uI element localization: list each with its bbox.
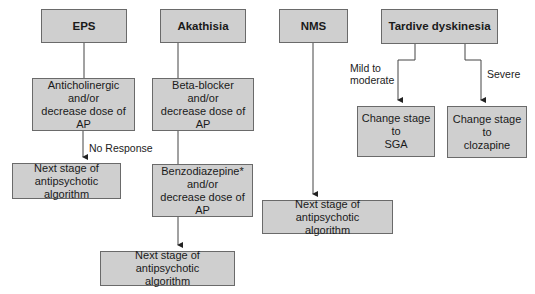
- change-to-sga-box: Change stage to SGA: [357, 106, 435, 157]
- akathisia-next-stage-box: Next stage of antipsychotic algorithm: [100, 251, 235, 286]
- tardive-dyskinesia-box: Tardive dyskinesia: [381, 9, 498, 44]
- severe-label: Severe: [487, 68, 520, 80]
- eps-treatment-box: Anticholinergic and/or decrease dose of …: [32, 78, 135, 131]
- eps-next-stage-box: Next stage of antipsychotic algorithm: [12, 163, 121, 199]
- benzodiazepine-box: Benzodiazepine* and/or decrease dose of …: [152, 164, 253, 217]
- nms-box: NMS: [279, 9, 348, 43]
- no-response-label: No Response: [89, 142, 153, 154]
- beta-blocker-box: Beta-blocker and/or decrease dose of AP: [152, 78, 254, 131]
- akathisia-box: Akathisia: [160, 9, 246, 43]
- mild-to-moderate-label: Mild to moderate: [350, 62, 394, 86]
- change-to-clozapine-box: Change stage to clozapine: [447, 106, 527, 158]
- eps-box: EPS: [41, 9, 127, 43]
- nms-next-stage-box: Next stage of antipsychotic algorithm: [262, 200, 393, 234]
